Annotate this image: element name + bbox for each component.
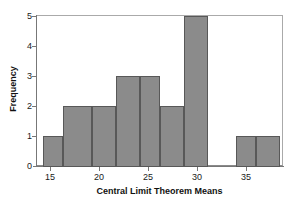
x-tick-mark-30 — [197, 167, 198, 171]
x-tick-label-25: 25 — [136, 172, 160, 182]
x-tick-label-35: 35 — [234, 172, 258, 182]
histogram-bar — [63, 106, 92, 167]
histogram-bar — [92, 106, 116, 167]
histogram-bar — [140, 76, 160, 167]
x-tick-label-15: 15 — [38, 172, 62, 182]
x-axis-title: Central Limit Theorem Means — [36, 186, 283, 196]
y-axis-title: Frequency — [8, 49, 18, 129]
x-tick-mark-15 — [50, 167, 51, 171]
histogram-chart: 0 1 2 3 4 5 15 20 25 30 35 Cen — [0, 0, 293, 202]
histogram-bar — [116, 76, 140, 167]
histogram-bar — [160, 106, 184, 167]
x-tick-mark-35 — [246, 167, 247, 171]
x-tick-mark-25 — [148, 167, 149, 171]
histogram-bar — [184, 16, 208, 167]
x-tick-label-20: 20 — [87, 172, 111, 182]
x-tick-mark-20 — [99, 167, 100, 171]
histogram-bar — [256, 136, 280, 167]
x-tick-label-30: 30 — [185, 172, 209, 182]
histogram-bar — [236, 136, 256, 167]
histogram-bar — [43, 136, 63, 167]
